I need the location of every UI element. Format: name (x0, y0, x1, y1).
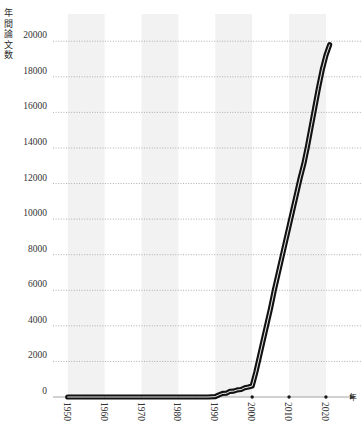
decade-band (68, 14, 105, 397)
x-axis-arrow (350, 394, 356, 399)
plot-area (53, 14, 337, 398)
x-tick-mark (287, 395, 290, 398)
decade-band (215, 14, 252, 397)
decade-bands (68, 14, 326, 397)
line-chart: 年間論文数 年 02000400060008000100001200014000… (0, 0, 362, 436)
x-tick-mark (250, 395, 253, 398)
decade-band (142, 14, 179, 397)
x-tick-mark (324, 395, 327, 398)
chart-canvas (53, 14, 362, 414)
